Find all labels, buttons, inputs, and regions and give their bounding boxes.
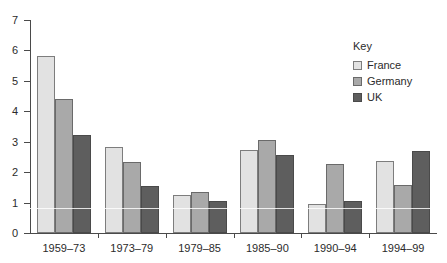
bar-chart: 01234567 1959–731973–791979–851985–90199… — [0, 0, 447, 263]
y-axis-tick-label: 1 — [2, 198, 18, 209]
legend-item-france: France — [353, 59, 445, 72]
medium-gray-swatch — [353, 77, 362, 86]
y-axis-tick-label: 0 — [2, 228, 18, 239]
bar-germany-1994-99 — [394, 185, 412, 233]
y-axis-tick-label: 7 — [2, 15, 18, 26]
y-axis-tick-label: 5 — [2, 76, 18, 87]
bar-germany-1979-85 — [191, 192, 209, 233]
x-axis-tick — [98, 233, 99, 238]
bar-germany-1973-79 — [123, 162, 141, 233]
bar-france-1979-85 — [173, 195, 191, 233]
x-axis-tick — [166, 233, 167, 238]
dark-gray-swatch — [353, 93, 362, 102]
y-axis-tick-label: 2 — [2, 167, 18, 178]
bar-france-1990-94 — [308, 204, 326, 233]
bar-uk-1985-90 — [276, 155, 294, 233]
legend-item-uk: UK — [353, 91, 445, 104]
legend-item-germany: Germany — [353, 75, 445, 88]
bar-uk-1959-73 — [73, 135, 91, 233]
x-axis-tick — [234, 233, 235, 238]
x-axis-label: 1973–79 — [98, 243, 166, 254]
bar-uk-1990-94 — [344, 201, 362, 233]
x-axis-label: 1979–85 — [166, 243, 234, 254]
bar-france-1994-99 — [376, 161, 394, 233]
bar-germany-1985-90 — [258, 140, 276, 233]
y-axis-tick-label: 4 — [2, 106, 18, 117]
y-axis-tick-label: 3 — [2, 137, 18, 148]
y-axis-tick-label: 6 — [2, 45, 18, 56]
x-axis-label: 1990–94 — [301, 243, 369, 254]
legend: Key FranceGermanyUK — [353, 41, 445, 107]
bar-france-1959-73 — [37, 56, 55, 233]
bar-uk-1979-85 — [209, 201, 227, 233]
legend-item-label: UK — [367, 92, 382, 103]
bar-france-1985-90 — [240, 150, 258, 233]
bar-uk-1973-79 — [141, 186, 159, 233]
x-axis-label: 1994–99 — [369, 243, 437, 254]
bar-germany-1959-73 — [55, 99, 73, 233]
bar-uk-1994-99 — [412, 151, 430, 233]
light-gray-swatch — [353, 61, 362, 70]
x-axis-tick — [301, 233, 302, 238]
y-axis-tick — [24, 233, 31, 234]
legend-title: Key — [353, 41, 445, 52]
x-axis-tick — [369, 233, 370, 238]
bar-france-1973-79 — [105, 147, 123, 233]
legend-entries: FranceGermanyUK — [353, 59, 445, 104]
x-axis-label: 1959–73 — [30, 243, 98, 254]
legend-item-label: France — [367, 60, 401, 71]
x-axis-label: 1985–90 — [234, 243, 302, 254]
bar-germany-1990-94 — [326, 164, 344, 233]
legend-item-label: Germany — [367, 76, 412, 87]
